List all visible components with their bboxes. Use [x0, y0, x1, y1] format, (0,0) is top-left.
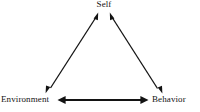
connector-environment-behavior-arrowhead-right — [140, 96, 148, 104]
connector-environment-self-line — [51, 18, 96, 88]
diagram-canvas: Self Environment Behavior — [0, 0, 200, 112]
node-label-behavior: Behavior — [152, 94, 186, 104]
connector-self-behavior-line — [113, 18, 158, 89]
connector-environment-self-arrowhead-bottom — [46, 85, 51, 93]
connector-environment-behavior-arrowhead-left — [58, 96, 66, 104]
connector-self-behavior — [110, 12, 163, 93]
connector-environment-self — [46, 12, 99, 93]
connector-self-behavior-arrowhead-bottom — [158, 86, 163, 94]
connector-environment-behavior — [58, 96, 149, 104]
node-label-self: Self — [94, 0, 114, 9]
node-label-environment: Environment — [1, 94, 49, 104]
